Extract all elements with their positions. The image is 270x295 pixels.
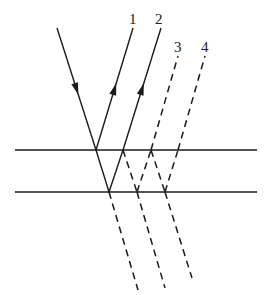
arrow-heads (71, 82, 147, 96)
reflected-ray-3 (151, 56, 178, 150)
arrow-icon (137, 82, 147, 96)
ray-label-3: 3 (174, 40, 182, 55)
transmitted-ray-2 (137, 192, 165, 288)
internal-ray-4 (137, 150, 151, 192)
internal-ray-3 (123, 150, 137, 192)
dashed-rays (109, 56, 205, 290)
diagram-svg (0, 0, 270, 295)
transmitted-ray-1 (109, 192, 138, 290)
arrow-icon (109, 82, 119, 96)
transmitted-ray-3 (165, 192, 192, 278)
ray-label-4: 4 (201, 40, 209, 55)
internal-ray-2 (109, 150, 123, 192)
internal-ray-1 (96, 150, 109, 192)
internal-ray-5 (151, 150, 165, 192)
film-surfaces (15, 150, 257, 192)
arrow-icon (71, 82, 81, 96)
thin-film-diagram: 1 2 3 4 (0, 0, 270, 295)
ray-label-1: 1 (129, 12, 137, 27)
internal-ray-6 (165, 150, 178, 192)
reflected-ray-4 (178, 56, 205, 150)
ray-label-2: 2 (155, 12, 163, 27)
